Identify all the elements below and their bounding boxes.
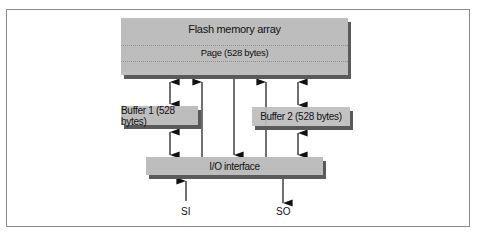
si-label: SI — [181, 206, 190, 217]
buffer1-box: Buffer 1 (528 bytes) — [121, 106, 198, 125]
io-interface-label: I/O interface — [209, 161, 260, 172]
flash-memory-array-box: Flash memory array Page (528 bytes) — [121, 18, 348, 75]
flash-memory-array-title: Flash memory array — [121, 23, 348, 35]
page-label: Page (528 bytes) — [121, 47, 348, 58]
page-divider-bottom — [121, 61, 348, 62]
so-label: SO — [276, 206, 290, 217]
io-interface-box: I/O interface — [146, 157, 323, 175]
buffer2-box: Buffer 2 (528 bytes) — [252, 107, 350, 126]
page-divider-top — [121, 45, 348, 46]
buffer2-label: Buffer 2 (528 bytes) — [260, 111, 342, 122]
buffer1-label: Buffer 1 (528 bytes) — [121, 105, 198, 127]
